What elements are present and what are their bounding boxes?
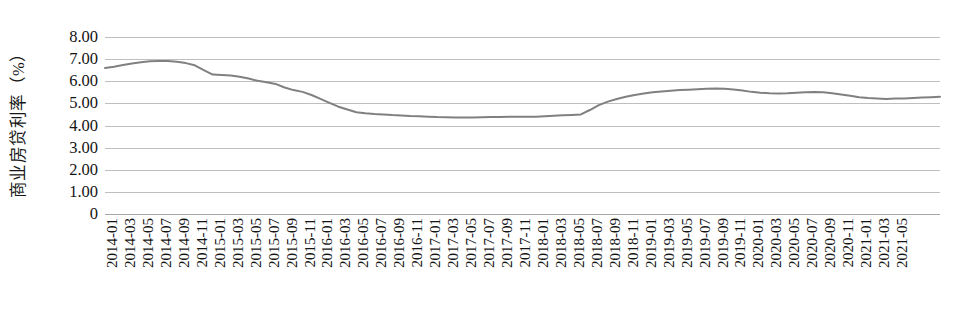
x-tick-label-2016-07: 2016-07 [367, 214, 381, 306]
x-tick-label-2015-03: 2015-03 [224, 214, 238, 306]
x-tick-label-2016-01: 2016-01 [313, 214, 327, 306]
x-tick-label-2021-01: 2021-01 [852, 214, 866, 306]
y-tick-label-5.00: 5.00 [34, 95, 98, 112]
y-axis-title: 商业房贷利率（%） [6, 26, 32, 216]
x-tick-label-2016-05: 2016-05 [349, 214, 363, 306]
x-tick-label-2019-09: 2019-09 [709, 214, 723, 306]
x-tick-label-2018-07: 2018-07 [583, 214, 597, 306]
x-tick-label-2016-11: 2016-11 [403, 214, 417, 306]
x-tick-label-2014-01: 2014-01 [98, 214, 112, 306]
x-axis-tick-labels: 2014-012014-032014-052014-072014-092014-… [105, 214, 940, 309]
x-tick-label-2016-03: 2016-03 [331, 214, 345, 306]
x-tick-label-2018-03: 2018-03 [547, 214, 561, 306]
x-tick-label-2015-01: 2015-01 [206, 214, 220, 306]
y-tick-label-0: 0 [34, 206, 98, 223]
chart-figure: 商业房贷利率（%） 8.007.006.005.004.003.002.001.… [0, 0, 963, 309]
x-tick-label-2014-07: 2014-07 [152, 214, 166, 306]
x-tick-label-2017-01: 2017-01 [421, 214, 435, 306]
x-tick-label-2019-01: 2019-01 [637, 214, 651, 306]
y-axis-tick-labels: 8.007.006.005.004.003.002.001.000 [34, 0, 102, 309]
x-tick-label-2020-03: 2020-03 [762, 214, 776, 306]
x-tick-label-text: 2021-05 [895, 218, 910, 268]
x-tick-label-2014-09: 2014-09 [170, 214, 184, 306]
x-tick-label-2015-09: 2015-09 [278, 214, 292, 306]
x-tick-label-2021-05: 2021-05 [888, 214, 902, 306]
y-axis-title-text: 商业房贷利率（%） [11, 44, 28, 198]
x-tick-label-2020-09: 2020-09 [816, 214, 830, 306]
series-line-path [105, 61, 940, 118]
y-tick-label-1.00: 1.00 [34, 184, 98, 201]
x-tick-label-2019-07: 2019-07 [691, 214, 705, 306]
x-tick-label-2019-03: 2019-03 [655, 214, 669, 306]
series-line-chart [105, 37, 940, 214]
x-tick-label-2017-09: 2017-09 [493, 214, 507, 306]
y-tick-label-8.00: 8.00 [34, 29, 98, 46]
x-tick-label-2016-09: 2016-09 [385, 214, 399, 306]
x-tick-label-2020-05: 2020-05 [780, 214, 794, 306]
x-tick-label-2017-11: 2017-11 [511, 214, 525, 306]
y-tick-label-6.00: 6.00 [34, 73, 98, 90]
x-tick-label-2020-01: 2020-01 [744, 214, 758, 306]
x-tick-label-2020-07: 2020-07 [798, 214, 812, 306]
x-tick-label-2015-07: 2015-07 [260, 214, 274, 306]
x-tick-label-2017-05: 2017-05 [457, 214, 471, 306]
x-tick-label-2014-03: 2014-03 [116, 214, 130, 306]
y-tick-label-3.00: 3.00 [34, 139, 98, 156]
x-tick-label-2015-05: 2015-05 [242, 214, 256, 306]
x-tick-label-2014-11: 2014-11 [188, 214, 202, 306]
plot-area [105, 37, 940, 214]
y-tick-label-4.00: 4.00 [34, 117, 98, 134]
x-tick-label-2015-11: 2015-11 [296, 214, 310, 306]
x-tick-label-2018-09: 2018-09 [601, 214, 615, 306]
x-tick-label-2018-11: 2018-11 [619, 214, 633, 306]
x-tick-label-2019-11: 2019-11 [726, 214, 740, 306]
x-tick-label-2014-05: 2014-05 [134, 214, 148, 306]
x-tick-label-2018-01: 2018-01 [529, 214, 543, 306]
x-tick-label-2021-03: 2021-03 [870, 214, 884, 306]
x-tick-label-2017-07: 2017-07 [475, 214, 489, 306]
y-tick-label-7.00: 7.00 [34, 51, 98, 68]
x-tick-label-2020-11: 2020-11 [834, 214, 848, 306]
x-tick-label-2019-05: 2019-05 [673, 214, 687, 306]
x-tick-label-2018-05: 2018-05 [565, 214, 579, 306]
x-tick-label-2017-03: 2017-03 [439, 214, 453, 306]
y-tick-label-2.00: 2.00 [34, 162, 98, 179]
